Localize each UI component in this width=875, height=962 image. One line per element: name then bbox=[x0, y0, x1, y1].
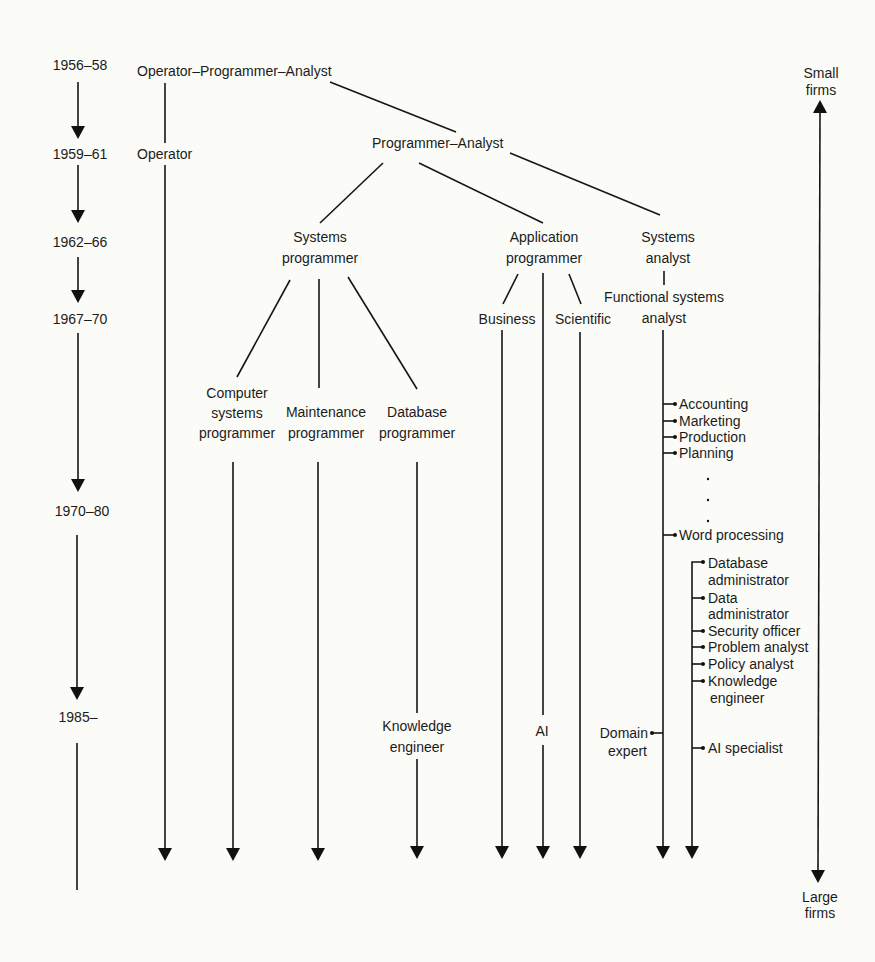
label-line: programmer bbox=[199, 425, 276, 441]
label-line: Database bbox=[387, 404, 447, 420]
label-line: expert bbox=[608, 743, 647, 759]
specialist-data-administrator: Data bbox=[708, 590, 738, 606]
arrow-down-icon bbox=[226, 848, 240, 861]
arrow-down-icon bbox=[656, 846, 670, 859]
label-line: Domain bbox=[600, 725, 648, 741]
arrow-down-icon bbox=[685, 846, 699, 859]
specialist-security-officer: Security officer bbox=[708, 623, 801, 639]
label-line: programmer bbox=[288, 425, 365, 441]
period-label: 1985– bbox=[59, 709, 98, 725]
specialization-production: Production bbox=[679, 429, 746, 445]
label-line: Maintenance bbox=[286, 404, 366, 420]
timeline: 1956–58 1959–61 1962–66 1967–70 1970–80 … bbox=[53, 57, 110, 890]
period-label: 1962–66 bbox=[53, 234, 108, 250]
period-label: 1959–61 bbox=[53, 146, 108, 162]
timeline-arrow bbox=[71, 165, 85, 223]
arrow-down-icon bbox=[71, 126, 85, 139]
arrow-down-icon bbox=[70, 687, 84, 700]
label-line: systems bbox=[211, 405, 262, 421]
label-line: Systems bbox=[641, 229, 695, 245]
role-computer-systems-programmer: Computer systems programmer bbox=[199, 385, 276, 441]
arrow-down-icon bbox=[495, 846, 509, 859]
specialist-knowledge-engineer: Knowledge bbox=[708, 673, 777, 689]
timeline-arrow bbox=[71, 257, 85, 303]
specialist-database-administrator: administrator bbox=[708, 572, 789, 588]
period-label: 1967–70 bbox=[53, 311, 108, 327]
arrow-down-icon bbox=[71, 479, 85, 492]
specialist-problem-analyst: Problem analyst bbox=[708, 639, 808, 655]
specialist-data-administrator: administrator bbox=[708, 606, 789, 622]
axis-label-small-firms: Small bbox=[803, 65, 838, 81]
label-line: Computer bbox=[206, 385, 268, 401]
period-label: 1956–58 bbox=[53, 57, 108, 73]
label-line: programmer bbox=[379, 425, 456, 441]
specialization-planning: Planning bbox=[679, 445, 734, 461]
label-line: Systems bbox=[293, 229, 347, 245]
specialist-policy-analyst: Policy analyst bbox=[708, 656, 794, 672]
arrow-down-icon bbox=[311, 848, 325, 861]
role-programmer-analyst: Programmer–Analyst bbox=[372, 135, 504, 151]
label-line: analyst bbox=[646, 250, 690, 266]
connector-line bbox=[330, 82, 456, 132]
arrow-down-icon bbox=[158, 848, 172, 861]
connector-line bbox=[320, 163, 383, 223]
specialist-knowledge-engineer: engineer bbox=[710, 690, 765, 706]
role-operator: Operator bbox=[137, 146, 193, 162]
specialist-ai-specialist: AI specialist bbox=[708, 740, 783, 756]
role-maintenance-programmer: Maintenance programmer bbox=[286, 404, 366, 441]
role-labels: Operator–Programmer–Analyst Operator Pro… bbox=[137, 63, 724, 759]
specialization-word-processing: Word processing bbox=[679, 527, 784, 543]
role-operator-programmer-analyst: Operator–Programmer–Analyst bbox=[137, 63, 332, 79]
career-line-specialists bbox=[692, 562, 702, 848]
role-knowledge-engineer: Knowledge engineer bbox=[382, 718, 451, 755]
connector-line bbox=[419, 163, 543, 223]
axis-label-large-firms: firms bbox=[805, 905, 835, 921]
connector-line bbox=[237, 280, 290, 377]
role-business: Business bbox=[479, 311, 536, 327]
connector-line bbox=[503, 274, 518, 304]
role-application-programmer: Application programmer bbox=[506, 229, 583, 266]
timeline-arrow bbox=[71, 82, 85, 139]
career-path-diagram: 1956–58 1959–61 1962–66 1967–70 1970–80 … bbox=[0, 0, 875, 962]
arrow-down-icon bbox=[71, 290, 85, 303]
arrow-down-icon bbox=[573, 846, 587, 859]
ellipsis-dots bbox=[707, 478, 709, 522]
role-domain-expert: Domain expert bbox=[600, 725, 648, 759]
period-label: 1970–80 bbox=[55, 503, 110, 519]
axis-label-large-firms: Large bbox=[802, 889, 838, 905]
axis-label-small-firms: firms bbox=[806, 82, 836, 98]
connector-line bbox=[510, 153, 660, 215]
label-line: Knowledge bbox=[382, 718, 451, 734]
connector-line bbox=[348, 277, 417, 389]
arrow-down-icon bbox=[71, 210, 85, 223]
arrow-down-icon bbox=[536, 846, 550, 859]
role-functional-systems-analyst: Functional systems analyst bbox=[604, 289, 724, 326]
role-scientific: Scientific bbox=[555, 311, 611, 327]
role-ai: AI bbox=[535, 723, 548, 739]
specialist-database-administrator: Database bbox=[708, 555, 768, 571]
role-database-programmer: Database programmer bbox=[379, 404, 456, 441]
connector-line bbox=[569, 274, 581, 304]
firm-size-axis-line bbox=[818, 111, 820, 872]
arrow-down-icon bbox=[811, 870, 825, 883]
label-line: analyst bbox=[642, 310, 686, 326]
role-systems-analyst: Systems analyst bbox=[641, 229, 695, 266]
specialist-roles: Database administrator Data administrato… bbox=[692, 555, 808, 756]
firm-size-axis: Small firms Large firms bbox=[802, 65, 838, 921]
label-line: programmer bbox=[506, 250, 583, 266]
timeline-arrow bbox=[71, 333, 85, 492]
timeline-arrow bbox=[70, 535, 84, 700]
role-systems-programmer: Systems programmer bbox=[282, 229, 359, 266]
label-line: engineer bbox=[390, 739, 445, 755]
arrow-down-icon bbox=[410, 846, 424, 859]
specialization-marketing: Marketing bbox=[679, 413, 740, 429]
specialization-accounting: Accounting bbox=[679, 396, 748, 412]
label-line: programmer bbox=[282, 250, 359, 266]
label-line: Application bbox=[510, 229, 579, 245]
label-line: Functional systems bbox=[604, 289, 724, 305]
